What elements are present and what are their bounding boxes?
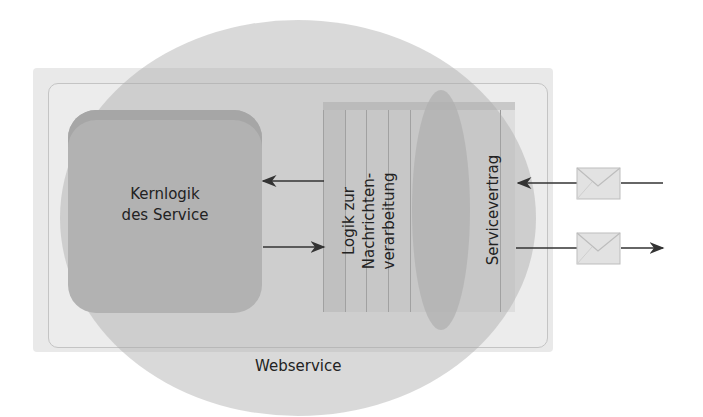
envelope-icon (577, 233, 620, 264)
envelope-icon (577, 168, 620, 199)
arrows-layer (0, 0, 703, 417)
